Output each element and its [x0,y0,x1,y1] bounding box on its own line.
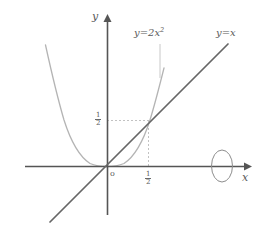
x-axis-label: x [242,172,248,183]
parabola-exponent: 2 [160,26,164,34]
x-tick-numerator: 1 [145,171,151,178]
x-tick-denominator: 2 [145,178,151,186]
y-axis-arrow [104,14,112,22]
origin-label: o [110,170,115,178]
graph-figure: y x o y=2x2 y=x 1 2 1 2 [0,0,265,238]
x-axis-arrow [244,163,252,171]
parabola-equals: = [140,27,148,38]
y-tick-label-one-half: 1 2 [95,112,101,128]
parabola-equation-label: y=2x2 [134,28,164,38]
y-tick-denominator: 2 [95,119,101,127]
y-tick-numerator: 1 [95,112,101,119]
line-y-equals-x [50,44,228,222]
x-tick-label-one-half: 1 2 [145,171,151,187]
parabola-curve-2x2 [46,45,165,167]
line-variable: x [230,27,236,38]
line-equals: = [222,27,230,38]
y-axis-label: y [92,11,98,22]
line-equation-label: y=x [216,28,236,38]
x-axis [25,163,252,171]
y-axis [104,14,112,215]
